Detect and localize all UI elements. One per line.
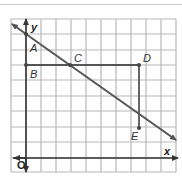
coordinate-grid-diagram: y x O A B C D E: [0, 0, 182, 193]
origin-label: O: [17, 159, 26, 171]
point-d: [137, 63, 141, 67]
sloped-line: [40, 44, 176, 140]
label-a: A: [29, 42, 37, 54]
label-d: D: [143, 52, 151, 64]
label-e: E: [131, 130, 139, 142]
label-c: C: [74, 52, 82, 64]
label-b: B: [30, 68, 37, 80]
point-c: [68, 63, 72, 67]
point-a: [24, 32, 28, 36]
y-axis-label: y: [30, 21, 38, 33]
point-b: [24, 63, 28, 67]
x-axis-label: x: [163, 145, 171, 157]
